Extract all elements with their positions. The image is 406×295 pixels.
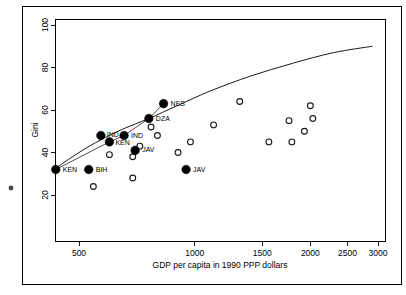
data-point-label: NES bbox=[171, 100, 186, 107]
x-tick-label: 2000 bbox=[301, 248, 320, 258]
data-point-open bbox=[188, 139, 194, 145]
data-point-label: JAV bbox=[142, 146, 155, 153]
plot-panel-border bbox=[56, 20, 386, 242]
data-point-open bbox=[175, 150, 181, 156]
x-tick-label: 1000 bbox=[185, 248, 204, 258]
data-point-filled bbox=[97, 131, 106, 140]
data-point-open bbox=[286, 118, 292, 124]
x-tick-label: 3000 bbox=[369, 248, 388, 258]
data-point-filled bbox=[51, 165, 60, 174]
data-point-filled bbox=[131, 146, 140, 155]
data-point-filled bbox=[182, 165, 191, 174]
data-point-open bbox=[310, 116, 316, 122]
data-point-label: JAV bbox=[193, 166, 206, 173]
data-point-open bbox=[237, 99, 243, 105]
data-point-filled bbox=[84, 165, 93, 174]
data-point-open bbox=[90, 184, 96, 190]
data-point-label: IND bbox=[107, 131, 119, 138]
labeled-data-points bbox=[51, 99, 190, 173]
x-tick-label: 2500 bbox=[338, 248, 357, 258]
data-point-open bbox=[289, 139, 295, 145]
data-point-open bbox=[107, 152, 113, 158]
x-tick-label: 1500 bbox=[253, 248, 272, 258]
data-point-open bbox=[155, 133, 161, 139]
data-point-open bbox=[266, 139, 272, 145]
data-point-filled bbox=[145, 114, 154, 123]
data-point-filled bbox=[105, 138, 114, 147]
data-point-label: IND bbox=[131, 132, 143, 139]
data-point-open bbox=[301, 128, 307, 134]
y-axis-title: Gini bbox=[30, 122, 40, 137]
scatter-plot-svg: 20406080100 50010001500200025003000 KENB… bbox=[0, 0, 406, 295]
data-point-open bbox=[148, 124, 154, 130]
x-tick-label: 500 bbox=[72, 248, 86, 258]
data-point-label: DZA bbox=[156, 115, 170, 122]
data-point-open bbox=[307, 103, 313, 109]
data-point-filled bbox=[159, 99, 168, 108]
chart-figure: 20406080100 50010001500200025003000 KENB… bbox=[0, 0, 406, 295]
data-point-label: KEN bbox=[63, 166, 77, 173]
data-point-open bbox=[211, 122, 217, 128]
data-point-open bbox=[130, 175, 136, 181]
fitted-trend-curve bbox=[54, 46, 373, 169]
data-point-label: KEN bbox=[115, 139, 129, 146]
y-tick-label: 20 bbox=[40, 190, 50, 200]
stray-mark bbox=[9, 186, 14, 191]
x-axis-ticks: 50010001500200025003000 bbox=[72, 241, 388, 258]
data-point-label: BIH bbox=[96, 166, 108, 173]
y-tick-label: 40 bbox=[40, 148, 50, 158]
y-tick-label: 80 bbox=[40, 63, 50, 73]
y-tick-label: 60 bbox=[40, 105, 50, 115]
y-tick-label: 100 bbox=[40, 18, 50, 32]
data-point-labels: KENBIHINDKENINDJAVDZANESJAV bbox=[63, 100, 206, 173]
x-axis-title: GDP per capita in 1990 PPP dollars bbox=[153, 260, 288, 270]
